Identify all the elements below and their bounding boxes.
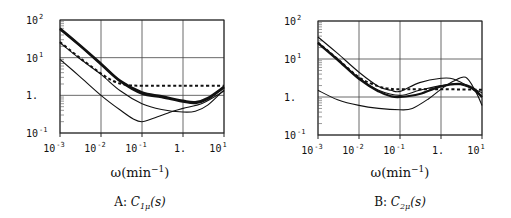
y-tick-label: 10-1 — [26, 126, 47, 139]
x-tick-label: 10-3 — [301, 143, 322, 156]
x-tick-label: 10-1 — [125, 141, 146, 154]
x-axis-label: ω(min−1) — [371, 164, 430, 180]
y-tick-label: 102 — [284, 14, 301, 27]
y-tick-label: 1. — [26, 90, 38, 101]
panel-caption: B: C2μ(s) — [374, 195, 426, 211]
panel-a: 10-310-210-11.1011021011.10-1ω(min−1)A: … — [26, 13, 227, 211]
x-tick-label: 10-2 — [84, 141, 105, 154]
panel-caption: A: C1μ(s) — [113, 195, 166, 211]
x-tick-label: 10-1 — [383, 143, 404, 156]
x-tick-label: 1. — [174, 143, 186, 154]
y-tick-label: 10-1 — [284, 128, 305, 141]
x-tick-label: 101 — [209, 141, 226, 154]
x-tick-label: 1. — [432, 145, 444, 156]
y-tick-label: 101 — [284, 52, 301, 65]
x-tick-label: 10-3 — [43, 141, 64, 154]
y-tick-label: 102 — [26, 13, 43, 26]
figure: 10-310-210-11.1011021011.10-1ω(min−1)A: … — [0, 0, 511, 218]
panel-b: 10-310-210-11.1011021011.10-1ω(min−1)B: … — [284, 14, 485, 211]
y-tick-label: 1. — [284, 92, 296, 103]
x-axis-label: ω(min−1) — [111, 164, 170, 180]
x-tick-label: 101 — [467, 143, 484, 156]
x-tick-label: 10-2 — [342, 143, 363, 156]
y-tick-label: 101 — [26, 51, 43, 64]
